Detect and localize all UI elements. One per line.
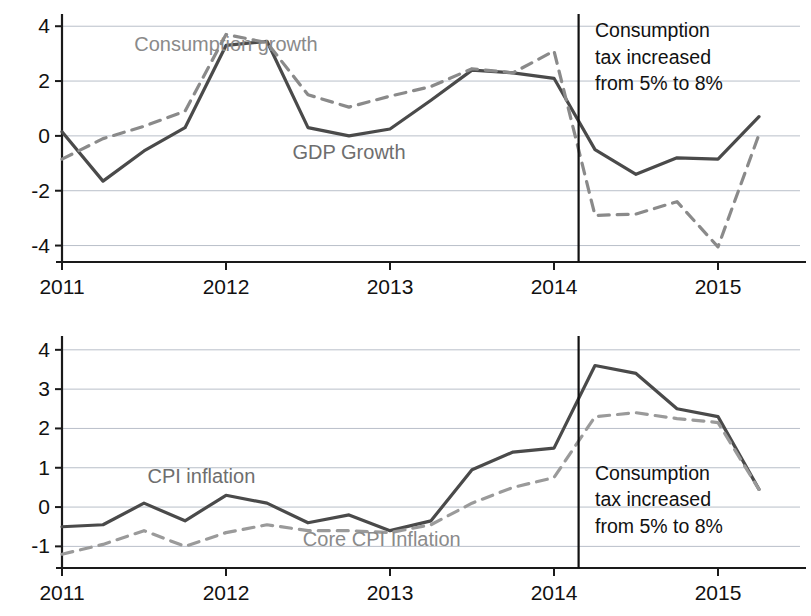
- x-tick-label: 2011: [39, 581, 84, 604]
- chart-panel-bottom: 43210-120112012201320142015CPI inflation…: [0, 310, 811, 616]
- y-tick-label: 2: [38, 69, 50, 92]
- x-tick-label: 2014: [531, 581, 578, 604]
- chart-panel-top: 420-2-420112012201320142015GDP GrowthCon…: [0, 0, 811, 310]
- x-tick-label: 2015: [695, 581, 742, 604]
- bottom-chart-svg: 43210-120112012201320142015CPI inflation…: [0, 310, 811, 616]
- x-tick-label: 2013: [367, 581, 414, 604]
- annotation-line-1: Consumption: [595, 462, 710, 484]
- y-tick-label: 1: [38, 456, 50, 479]
- y-axis-ticks: 420-2-4: [31, 14, 62, 256]
- y-tick-label: -2: [31, 179, 50, 202]
- annotation-line-3: from 5% to 8%: [595, 72, 723, 94]
- x-axis-ticks: 20112012201320142015: [39, 568, 741, 604]
- series-label-2: Consumption growth: [134, 33, 317, 55]
- series-label-1: CPI inflation: [147, 465, 255, 487]
- x-tick-label: 2012: [203, 275, 250, 298]
- x-tick-label: 2014: [531, 275, 578, 298]
- annotation-line-3: from 5% to 8%: [595, 515, 723, 537]
- y-tick-label: 0: [38, 124, 50, 147]
- y-tick-label: 2: [38, 416, 50, 439]
- y-tick-label: 0: [38, 495, 50, 518]
- series-label-2: Core CPI Inflation: [303, 528, 461, 550]
- y-tick-label: 4: [38, 338, 50, 361]
- x-tick-label: 2012: [203, 581, 250, 604]
- y-tick-label: 3: [38, 377, 50, 400]
- series-label-1: GDP Growth: [293, 141, 406, 163]
- y-axis-ticks: 43210-1: [31, 338, 62, 558]
- x-axis-ticks: 20112012201320142015: [39, 262, 741, 298]
- top-chart-svg: 420-2-420112012201320142015GDP GrowthCon…: [0, 0, 811, 310]
- x-tick-label: 2015: [695, 275, 742, 298]
- x-tick-label: 2011: [39, 275, 84, 298]
- annotation-line-1: Consumption: [595, 19, 710, 41]
- x-tick-label: 2013: [367, 275, 414, 298]
- annotation-line-2: tax increased: [595, 46, 711, 68]
- y-tick-label: -4: [31, 234, 50, 257]
- annotation-line-2: tax increased: [595, 488, 711, 510]
- y-tick-label: -1: [31, 534, 50, 557]
- figure-root: 420-2-420112012201320142015GDP GrowthCon…: [0, 0, 811, 616]
- y-tick-label: 4: [38, 14, 50, 37]
